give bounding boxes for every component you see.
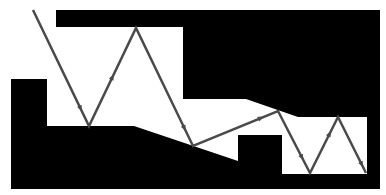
reflection-diagram xyxy=(0,0,386,195)
diagram-canvas xyxy=(0,0,386,195)
